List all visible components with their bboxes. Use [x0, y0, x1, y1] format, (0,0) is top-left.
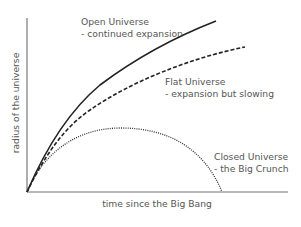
open-universe-sublabel: - continued expansion: [81, 28, 183, 39]
open-universe-label: Open Universe: [81, 16, 149, 27]
x-axis-label: time since the Big Bang: [102, 198, 212, 209]
flat-universe-curve: [27, 47, 245, 192]
flat-universe-label: Flat Universe: [165, 76, 226, 87]
closed-universe-sublabel: - the Big Crunch: [214, 163, 289, 174]
y-axis-label: radius of the universe: [10, 52, 21, 153]
closed-universe-label: Closed Universe: [214, 151, 289, 162]
closed-universe-curve: [27, 128, 222, 192]
universe-expansion-diagram: Open Universe - continued expansion Flat…: [0, 0, 301, 227]
open-universe-curve: [27, 21, 216, 192]
flat-universe-sublabel: - expansion but slowing: [165, 88, 274, 99]
